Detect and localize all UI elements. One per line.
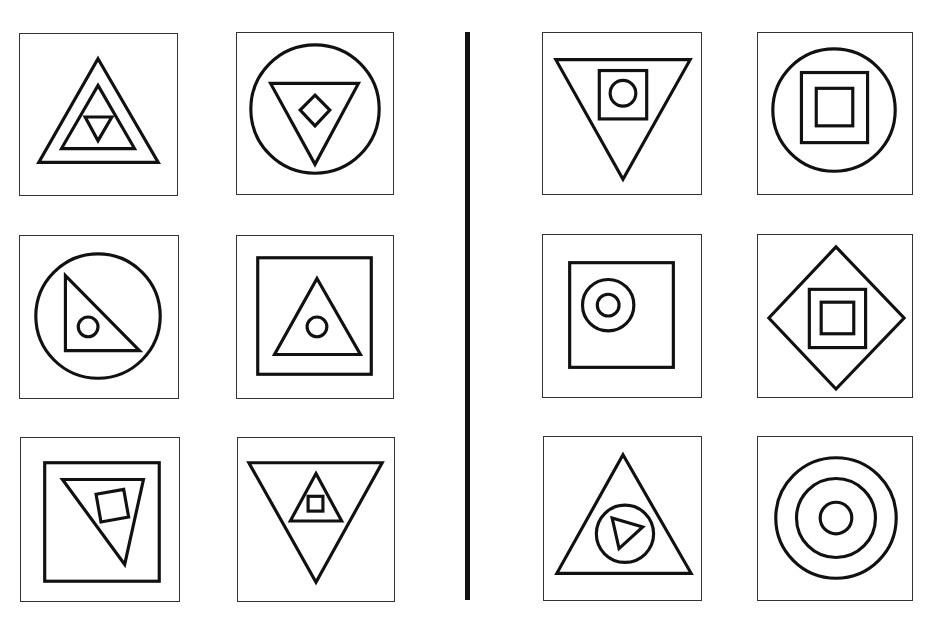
panel-R3 (542, 234, 702, 398)
panel-R5 (543, 436, 702, 601)
outer-circle (776, 458, 896, 578)
inner-square (816, 88, 853, 126)
panel-R6 (757, 436, 913, 601)
inner-circle (78, 317, 98, 337)
inner-circle (307, 317, 327, 337)
panel-L5 (20, 437, 180, 602)
panel-L2 (236, 32, 394, 195)
panel-R1 (542, 32, 702, 195)
middle-circle (797, 479, 876, 558)
panel-L3 (19, 235, 179, 399)
right-triangle (65, 276, 139, 351)
circle-righttriangle-circle-figure (20, 236, 178, 398)
panel-R2 (757, 32, 913, 195)
panel-L4 (236, 235, 394, 399)
diamond-square-square-figure (758, 235, 912, 397)
outer-circle (36, 254, 160, 378)
square-circle-circle-figure (543, 235, 701, 397)
group-divider-line (465, 32, 470, 600)
triangle-triangle-square-figure (238, 438, 394, 601)
inner-circle (597, 294, 619, 316)
inner-diamond (300, 95, 330, 126)
outer-triangle-up (39, 59, 158, 163)
inner-triangle-down (85, 117, 112, 141)
triangle-circle-triangle-figure (544, 437, 701, 600)
middle-square (801, 73, 867, 143)
outer-triangle-up (557, 455, 691, 573)
middle-square (809, 289, 865, 347)
square-tiltedtriangle-square-figure (21, 438, 179, 601)
circle-square-square-figure (758, 33, 912, 194)
circle-triangle-diamond-figure (237, 33, 393, 194)
panel-R4 (757, 234, 913, 398)
outer-circle (773, 49, 895, 171)
inner-square (821, 302, 854, 334)
concentric-circles-figure (758, 437, 912, 600)
outer-diamond (769, 247, 904, 389)
inner-circle (610, 80, 636, 106)
triangle-square-circle-figure (543, 33, 701, 194)
nested-triangles-figure (20, 34, 177, 195)
middle-circle (596, 505, 653, 562)
square-triangle-circle-figure (237, 236, 393, 398)
inner-square (308, 496, 323, 511)
middle-circle (583, 279, 634, 330)
tilted-inner-square (96, 489, 129, 522)
panel-L6 (237, 437, 395, 602)
inner-triangle-right (612, 518, 643, 549)
middle-square (599, 71, 646, 119)
inner-circle (820, 502, 852, 534)
outer-circle (251, 45, 379, 173)
panel-L1 (19, 33, 178, 196)
